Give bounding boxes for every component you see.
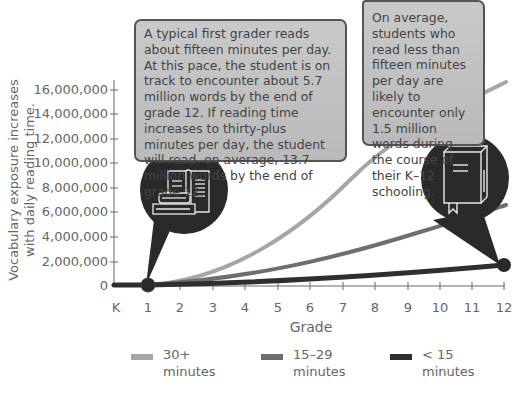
x-axis-label: Grade — [290, 319, 333, 335]
x-tick-label: 10 — [432, 300, 449, 315]
legend-label-line1: 15–29 — [293, 346, 346, 363]
callout-first-grader: A typical first grader reads about fifte… — [134, 19, 347, 162]
legend-item-30-plus: 30+ minutes — [131, 346, 216, 380]
x-tick-label: 12 — [496, 300, 513, 315]
y-tick-label: 4,000,000 — [42, 229, 108, 244]
x-tick-label: 8 — [371, 300, 379, 315]
legend-label-line1: < 15 — [422, 346, 475, 363]
y-tick-label: 12,000,000 — [34, 131, 108, 146]
legend-label-line2: minutes — [293, 363, 346, 380]
y-tick-label: 14,000,000 — [34, 106, 108, 121]
legend-label-line1: 30+ — [163, 346, 216, 363]
y-tick-label: 6,000,000 — [42, 204, 108, 219]
callout-first-grader-text: A typical first grader reads about fifte… — [144, 26, 331, 199]
legend-label-line2: minutes — [422, 363, 475, 380]
legend-label-line2: minutes — [163, 363, 216, 380]
x-tick-label: 5 — [274, 300, 282, 315]
x-tick-label: 4 — [241, 300, 249, 315]
legend-item-under-15: < 15 minutes — [390, 346, 475, 380]
series-line-under-15 — [114, 265, 504, 285]
legend-item-15-29: 15–29 minutes — [261, 346, 346, 380]
legend-swatch — [261, 354, 283, 360]
legend-swatch — [390, 354, 412, 360]
y-tick-label: 16,000,000 — [34, 82, 108, 97]
y-axis-label-wrap: Vocabulary exposure increases with daily… — [2, 70, 42, 290]
x-tick-label: 6 — [306, 300, 314, 315]
y-axis-label: Vocabulary exposure increases with daily… — [6, 70, 38, 290]
x-tick-label: 9 — [404, 300, 412, 315]
callout-low-readers: On average, students who read less than … — [362, 0, 485, 146]
x-tick-label: 2 — [176, 300, 184, 315]
x-tick-label: 7 — [339, 300, 347, 315]
x-tick-label: 1 — [144, 300, 152, 315]
y-tick-label: 10,000,000 — [34, 155, 108, 170]
y-tick-label: 0 — [100, 278, 108, 293]
x-tick-label: 11 — [464, 300, 481, 315]
x-tick-label: K — [112, 300, 121, 315]
x-tick-label: 3 — [209, 300, 217, 315]
y-tick-label: 8,000,000 — [42, 180, 108, 195]
y-tick-label: 2,000,000 — [42, 254, 108, 269]
legend-swatch — [131, 354, 153, 360]
